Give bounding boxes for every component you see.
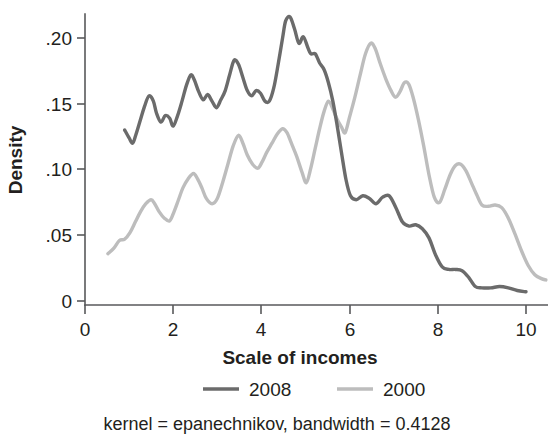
series-group (108, 17, 546, 292)
y-tick-label-1: .05 (46, 225, 72, 246)
plot-caption: kernel = epanechnikov, bandwidth = 0.412… (104, 414, 451, 434)
x-tick-label-0: 0 (80, 319, 91, 340)
series-line-2008 (125, 17, 526, 292)
kernel-density-figure: 0 .05 .10 .15 .20 0 2 4 6 8 10 Density S… (0, 0, 548, 440)
x-tick-marks (85, 305, 526, 314)
x-tick-label-2: 4 (256, 319, 267, 340)
x-tick-label-3: 6 (345, 319, 356, 340)
legend-label-2008: 2008 (249, 379, 291, 400)
x-tick-label-1: 2 (168, 319, 179, 340)
legend: 2008 2000 (203, 379, 425, 400)
legend-label-2000: 2000 (383, 379, 425, 400)
x-axis-title: Scale of incomes (222, 347, 377, 368)
y-axis-title: Density (5, 125, 26, 194)
y-tick-marks (77, 38, 85, 301)
x-tick-labels: 0 2 4 6 8 10 (80, 319, 537, 340)
density-plot-svg: 0 .05 .10 .15 .20 0 2 4 6 8 10 Density S… (0, 0, 548, 440)
y-tick-label-2: .10 (46, 159, 72, 180)
x-tick-label-5: 10 (515, 319, 536, 340)
x-tick-label-4: 8 (433, 319, 444, 340)
y-tick-label-4: .20 (46, 28, 72, 49)
y-tick-labels: 0 .05 .10 .15 .20 (46, 28, 72, 312)
y-tick-label-0: 0 (61, 291, 72, 312)
y-tick-label-3: .15 (46, 94, 72, 115)
